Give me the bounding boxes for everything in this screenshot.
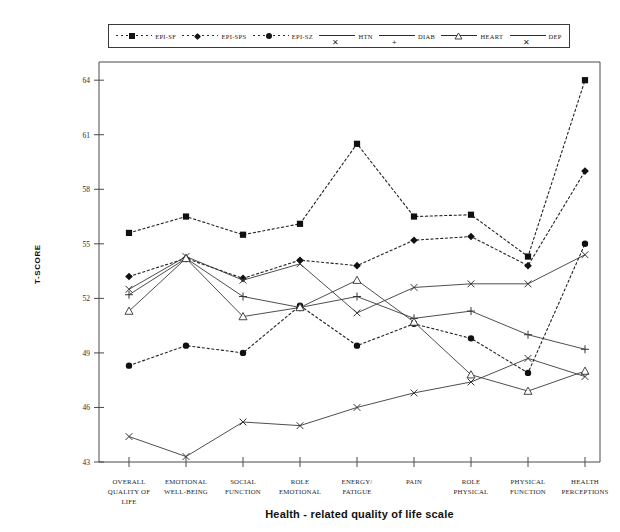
marker-circle [183,342,189,348]
x-category-label: LIFE [121,498,136,505]
series-epi-sps [125,167,589,282]
y-axis-title: T-SCORE [33,244,42,284]
marker-circle [468,335,474,341]
series-heart [125,254,589,394]
x-category-label: QUALITY OF [108,488,150,495]
x-category-label: FUNCTION [510,488,546,495]
marker-diamond [125,273,133,281]
marker-circle [525,370,531,376]
chart-plot-area: 4346495255586164 OVERALLQUALITY OFLIFEEM… [0,0,620,532]
marker-triangle [353,276,361,283]
marker-plus [239,293,247,301]
marker-x [126,433,133,440]
marker-square [525,253,531,259]
x-category-label: OVERALL [112,478,145,485]
marker-x [525,355,532,362]
marker-circle [582,241,588,247]
y-tick-label: 61 [83,131,91,140]
series-layer [125,77,589,460]
series-epi-sf [126,77,588,260]
marker-diamond [296,256,304,264]
y-tick-label: 55 [83,240,91,249]
marker-x [354,310,361,317]
x-category-label: PERCEPTIONS [561,488,608,495]
marker-circle [126,362,132,368]
x-category-label: PAIN [406,478,422,485]
x-category-label: FUNCTION [225,488,261,495]
x-category-label: ROLE [462,478,481,485]
x-category-label: HEALTH [571,478,599,485]
marker-plus [467,307,475,315]
marker-diamond [239,275,247,283]
marker-square [411,213,417,219]
marker-diamond [467,233,475,241]
labels-layer: OVERALLQUALITY OFLIFEEMOTIONALWELL-BEING… [33,244,609,520]
y-tick-label: 58 [83,185,91,194]
plot-frame [99,62,600,462]
marker-square [183,213,189,219]
x-category-label: PHYSICAL [454,488,489,495]
marker-plus [581,345,589,353]
marker-diamond [410,236,418,244]
marker-diamond [353,262,361,270]
x-category-label: PHYSICAL [511,478,546,485]
series-dep [126,355,589,460]
y-tick-label: 49 [83,349,91,358]
x-category-label: EMOTIONAL [279,488,321,495]
marker-plus [524,331,532,339]
x-category-label: FATIGUE [342,488,371,495]
marker-square [126,230,132,236]
marker-plus [353,293,361,301]
y-tick-label: 64 [83,76,91,85]
series-line [129,80,585,256]
marker-triangle [410,318,418,325]
x-category-label: ROLE [291,478,310,485]
marker-x [354,404,361,411]
marker-square [354,141,360,147]
x-category-label: WELL-BEING [164,488,208,495]
y-tick-label: 52 [83,294,91,303]
marker-square [297,221,303,227]
marker-circle [240,350,246,356]
marker-circle [354,342,360,348]
marker-square [582,77,588,83]
y-tick-label: 46 [83,403,91,412]
x-category-label: SOCIAL [230,478,256,485]
marker-diamond [581,167,589,175]
x-category-label: ENERGY/ [342,478,373,485]
series-line [129,258,585,349]
marker-diamond [524,262,532,270]
x-category-label: EMOTIONAL [165,478,207,485]
marker-square [468,212,474,218]
marker-square [240,232,246,238]
line-chart: 4346495255586164 OVERALLQUALITY OFLIFEEM… [0,0,620,532]
x-axis-title: Health - related quality of life scale [265,508,454,520]
marker-x [582,251,589,258]
y-tick-label: 43 [83,458,91,467]
